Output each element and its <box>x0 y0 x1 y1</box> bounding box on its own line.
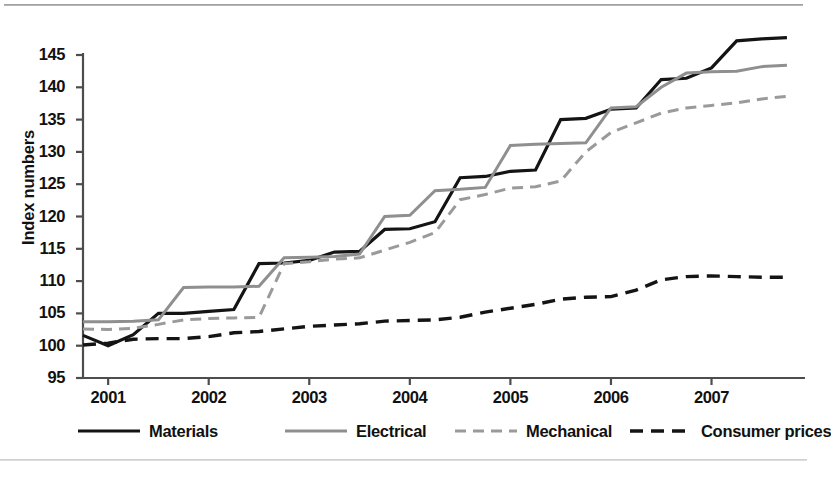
legend-label: Materials <box>149 422 218 441</box>
y-axis-tick-label: 100 <box>25 336 65 355</box>
x-axis-tick-label: 2004 <box>380 388 440 407</box>
legend-swatch-solid <box>78 426 140 436</box>
chart-legend: MaterialsElectricalMechanicalConsumer pr… <box>0 418 807 448</box>
x-axis-tick-label: 2003 <box>279 388 339 407</box>
series-line-electrical <box>83 65 787 321</box>
y-axis-tick-label: 95 <box>25 368 65 387</box>
legend-item-materials[interactable]: Materials <box>78 418 218 444</box>
x-axis-tick-label: 2002 <box>179 388 239 407</box>
legend-swatch-dashed <box>455 426 517 436</box>
y-axis-tick-label: 105 <box>25 303 65 322</box>
x-axis-tick-label: 2007 <box>682 388 742 407</box>
y-axis-tick-label: 130 <box>25 142 65 161</box>
legend-label: Electrical <box>356 422 426 441</box>
series-line-mechanical <box>83 96 787 329</box>
x-axis-tick-label: 2006 <box>581 388 641 407</box>
y-axis-tick-label: 120 <box>25 207 65 226</box>
legend-label: Mechanical <box>526 422 612 441</box>
y-axis-tick-label: 110 <box>25 271 65 290</box>
legend-item-mechanical[interactable]: Mechanical <box>455 418 612 444</box>
y-axis-tick-label: 125 <box>25 174 65 193</box>
x-axis-tick-label: 2005 <box>480 388 540 407</box>
y-axis-tick-label: 145 <box>25 45 65 64</box>
legend-item-consumer-prices[interactable]: Consumer prices <box>630 418 831 444</box>
legend-swatch-solid <box>285 426 347 436</box>
y-axis-tick-label: 135 <box>25 110 65 129</box>
legend-swatch-dashed <box>630 426 692 436</box>
legend-label: Consumer prices <box>701 422 831 441</box>
y-axis-tick-label: 140 <box>25 77 65 96</box>
x-axis-tick-label: 2001 <box>78 388 138 407</box>
legend-item-electrical[interactable]: Electrical <box>285 418 426 444</box>
y-axis-tick-label: 115 <box>25 239 65 258</box>
